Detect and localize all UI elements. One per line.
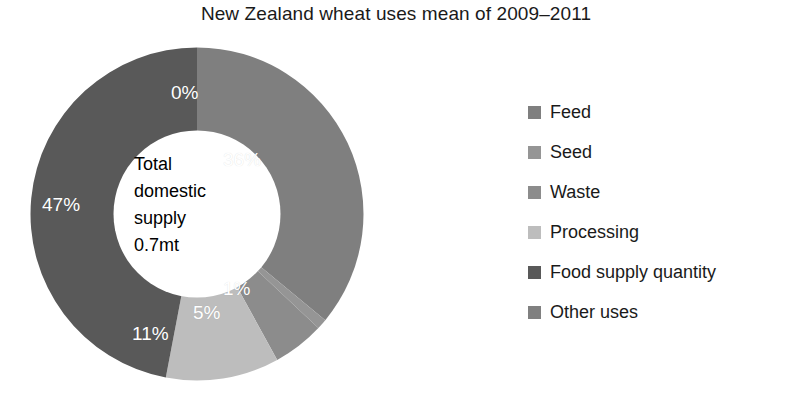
legend-label: Food supply quantity xyxy=(550,261,716,283)
slice-label-other-uses: 0% xyxy=(171,83,198,102)
legend-item-processing[interactable]: Processing xyxy=(528,212,778,252)
legend-swatch-icon xyxy=(528,266,541,279)
legend-label: Seed xyxy=(550,141,592,163)
legend-swatch-icon xyxy=(528,106,541,119)
legend-swatch-icon xyxy=(528,306,541,319)
legend-item-other-uses[interactable]: Other uses xyxy=(528,292,778,332)
chart-page: New Zealand wheat uses mean of 2009–2011… xyxy=(0,0,792,399)
center-caption-line-1: Total xyxy=(134,151,274,178)
legend-item-food-supply-quantity[interactable]: Food supply quantity xyxy=(528,252,778,292)
page-title: New Zealand wheat uses mean of 2009–2011 xyxy=(0,2,792,26)
slice-label-food-supply-quantity: 47% xyxy=(42,195,80,214)
legend-swatch-icon xyxy=(528,226,541,239)
center-caption-line-2: domestic xyxy=(134,178,274,205)
legend-label: Processing xyxy=(550,221,639,243)
center-caption-line-4: 0.7mt xyxy=(134,232,274,259)
slice-label-seed: 1% xyxy=(223,279,250,298)
legend-swatch-icon xyxy=(528,186,541,199)
legend-item-seed[interactable]: Seed xyxy=(528,132,778,172)
chart-legend: Feed Seed Waste Processing Food supply q… xyxy=(528,92,778,332)
slice-label-waste: 5% xyxy=(193,303,220,322)
legend-label: Waste xyxy=(550,181,600,203)
center-caption-line-3: supply xyxy=(134,205,274,232)
legend-swatch-icon xyxy=(528,146,541,159)
legend-item-feed[interactable]: Feed xyxy=(528,92,778,132)
center-caption: Total domestic supply 0.7mt xyxy=(134,151,274,259)
legend-label: Feed xyxy=(550,101,591,123)
legend-item-waste[interactable]: Waste xyxy=(528,172,778,212)
slice-label-processing: 11% xyxy=(132,324,169,343)
legend-label: Other uses xyxy=(550,301,638,323)
